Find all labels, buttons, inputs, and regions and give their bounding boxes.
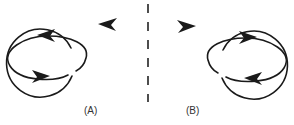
panel-b-label: (B) bbox=[186, 105, 199, 116]
panel-b bbox=[177, 20, 287, 99]
panel-a-ellipse-bottom-arrow-icon bbox=[32, 70, 50, 83]
panel-b-ellipse bbox=[207, 38, 286, 81]
panel-b-circle bbox=[222, 31, 287, 99]
panel-b-circle-top-arrow-icon bbox=[177, 20, 196, 33]
linked-loops-diagram bbox=[0, 0, 294, 125]
panel-a bbox=[7, 18, 117, 97]
panel-a-circle-top-arrow-icon bbox=[98, 18, 117, 31]
panel-a-circle bbox=[7, 29, 72, 97]
panel-a-ellipse bbox=[8, 36, 87, 79]
panel-b-ellipse-bottom-arrow-icon bbox=[244, 72, 262, 85]
panel-a-label: (A) bbox=[84, 105, 97, 116]
